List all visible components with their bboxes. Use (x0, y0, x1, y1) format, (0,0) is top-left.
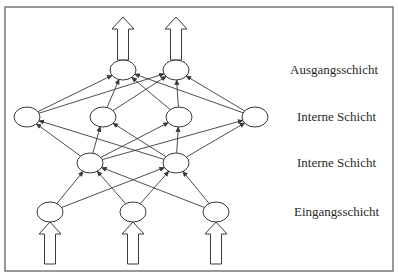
connection-edge (177, 80, 179, 107)
connection-edge (93, 127, 100, 153)
neuron-node-input (37, 202, 63, 222)
connection-edge (57, 172, 83, 204)
neuron-node-hidden1 (163, 153, 189, 173)
connections (36, 74, 244, 208)
connection-edge (62, 168, 165, 208)
neuron-node-hidden2 (242, 107, 268, 127)
neuron-node-hidden2 (90, 107, 116, 127)
layer-label-hidden-1: Interne Schicht (297, 155, 376, 171)
connection-edge (132, 77, 170, 109)
neuron-node-input (203, 202, 229, 222)
output-arrow-icon (112, 17, 134, 60)
input-arrow-icon (205, 222, 227, 264)
input-arrow-icon (39, 222, 61, 264)
input-arrow-icon (122, 222, 144, 264)
connection-edge (177, 127, 179, 153)
connection-edge (107, 80, 119, 108)
diagram-frame (5, 7, 393, 271)
connection-edge (186, 76, 244, 111)
neuron-node-hidden2 (166, 107, 192, 127)
neuron-node-input (120, 202, 146, 222)
connection-edge (36, 124, 80, 156)
connection-edge (183, 172, 209, 204)
output-arrow-icon (165, 17, 187, 60)
layer-label-input: Eingangsschicht (294, 204, 379, 220)
neuron-node-hidden2 (14, 107, 40, 127)
neuron-node-output (110, 60, 136, 80)
connection-edge (102, 168, 205, 208)
connection-edge (140, 171, 168, 203)
neuron-node-output (163, 60, 189, 80)
neuron-node-hidden1 (77, 153, 103, 173)
connection-edge (97, 171, 125, 203)
layer-label-output: Ausgangsschicht (290, 62, 378, 78)
layer-label-hidden-2: Interne Schicht (297, 109, 376, 125)
neural-network-diagram (0, 0, 398, 279)
